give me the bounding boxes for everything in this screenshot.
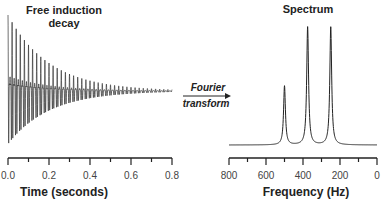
spectrum-x-axis: 8006004002000 — [221, 158, 381, 181]
spectrum-tick-label: 600 — [258, 170, 275, 181]
fid-tick-label: 0.6 — [124, 170, 138, 181]
arrow-label-fourier: Fourier — [191, 82, 227, 93]
spectrum-title: Spectrum — [283, 3, 334, 15]
spectrum-tick-label: 200 — [332, 170, 349, 181]
fid-title-line2: decay — [48, 17, 80, 29]
spectrum-x-axis-label: Frequency (Hz) — [263, 185, 350, 199]
fid-tick-label: 0.8 — [165, 170, 179, 181]
spectrum-line — [229, 27, 377, 145]
fid-tick-label: 0.2 — [42, 170, 56, 181]
fid-title-line1: Free induction — [26, 4, 102, 16]
fid-signal-line — [8, 15, 172, 143]
fid-x-axis: 0.00.20.40.60.8 — [1, 158, 179, 181]
fid-tick-label: 0.4 — [83, 170, 97, 181]
fid-x-axis-label: Time (seconds) — [20, 185, 108, 199]
spectrum-tick-label: 400 — [295, 170, 312, 181]
arrow-label-transform: transform — [183, 98, 230, 109]
spectrum-tick-label: 800 — [221, 170, 238, 181]
figure: Free induction decay 0.00.20.40.60.8 Tim… — [0, 0, 382, 203]
spectrum-tick-label: 0 — [374, 170, 380, 181]
fid-tick-label: 0.0 — [1, 170, 15, 181]
